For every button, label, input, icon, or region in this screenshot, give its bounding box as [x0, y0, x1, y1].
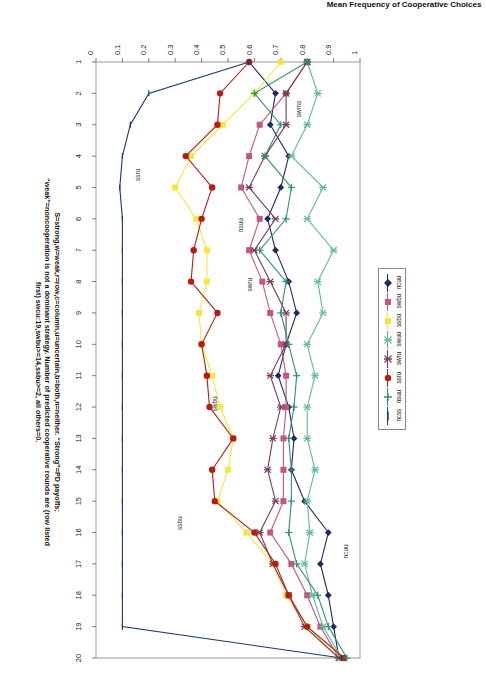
data-point-ssru: [198, 341, 204, 347]
x-tick-label: 11: [74, 372, 83, 380]
x-tick-label: 9: [74, 311, 83, 315]
x-tick-label: 7: [74, 248, 83, 252]
y-tick-label: 0.9: [324, 45, 333, 55]
data-point-ssru: [214, 310, 220, 316]
x-tick-label: 20: [74, 654, 83, 662]
x-tick-label: 3: [74, 123, 83, 127]
series-line-swuu: [291, 62, 341, 658]
x-tick-label: 19: [74, 622, 83, 630]
x-tick-label: 14: [74, 466, 83, 474]
data-point-ssru: [209, 184, 215, 190]
data-point-ncuu: [275, 372, 282, 379]
data-point-ssru: [204, 372, 210, 378]
legend-item-ncss[interactable]: ncss: [382, 406, 402, 425]
line-chart: 00.10.20.30.40.50.60.70.80.9112345678910…: [70, 0, 370, 680]
data-point-swuu: [330, 247, 338, 253]
legend-item-nsuu[interactable]: nsuu: [382, 387, 402, 406]
x-tick-label: 8: [74, 279, 83, 283]
data-point-ssru: [190, 247, 196, 253]
data-point-swbu: [257, 216, 263, 222]
data-point-swuu: [303, 216, 311, 222]
caption-line-2: “weak”=noncooperation is not a dominant …: [43, 62, 53, 662]
data-point-ncuu: [277, 184, 284, 191]
data-point-swru: [266, 279, 274, 285]
data-point-ssru: [212, 498, 218, 504]
series-annotation: nsuu: [237, 218, 244, 232]
y-tick-label: 0.2: [139, 45, 148, 55]
data-point-swuu: [314, 90, 322, 96]
data-point-nsuu: [285, 529, 292, 536]
series-line-swbu: [241, 62, 339, 658]
series-annotation: ncuu: [342, 544, 349, 558]
y-tick-label: 0.5: [218, 45, 227, 55]
data-point-ncuu: [317, 560, 324, 567]
data-point-swru: [245, 184, 253, 190]
data-point-swbu: [267, 530, 273, 536]
data-point-ncuu: [264, 215, 271, 222]
y-tick-label: 0.3: [166, 45, 175, 55]
data-point-ssru: [217, 90, 223, 96]
x-tick-label: 18: [74, 591, 83, 599]
data-point-ssbu: [243, 530, 249, 536]
legend-marker-square-icon: [382, 312, 393, 330]
legend-item-ssbu[interactable]: ssbu: [382, 311, 402, 330]
series-line-ssbu: [175, 62, 339, 658]
x-tick-label: 1: [74, 60, 83, 64]
legend-label: swru: [395, 352, 402, 365]
legend-marker-diamond-icon: [382, 274, 393, 292]
x-tick-label: 17: [74, 560, 83, 568]
legend-marker-plus-icon: [382, 388, 393, 406]
plot-area-wrapper: 00.10.20.30.40.50.60.70.80.9112345678910…: [70, 0, 370, 680]
data-point-swbu: [259, 279, 265, 285]
x-tick-label: 2: [74, 91, 83, 95]
legend-marker-line-icon: [382, 407, 393, 425]
y-tick-label: 0.6: [245, 45, 254, 55]
y-tick-label: 1: [350, 51, 359, 55]
legend-label: ncuu: [395, 276, 402, 289]
data-point-ssru: [286, 592, 292, 598]
legend-label: ncss: [395, 409, 402, 422]
data-point-ssbu: [225, 467, 231, 473]
data-point-ssbu: [172, 184, 178, 190]
data-point-nsuu: [288, 466, 295, 473]
data-point-swuu: [288, 153, 296, 159]
data-point-ssru: [304, 623, 310, 629]
series-annotation: swbu: [211, 396, 218, 412]
plot-frame: [96, 62, 360, 658]
data-point-ssbu: [196, 310, 202, 316]
legend-label: swbu: [395, 294, 402, 308]
y-tick-label: 0.8: [298, 45, 307, 55]
data-point-swbu: [257, 122, 263, 128]
legend-item-swuu[interactable]: swuu: [382, 330, 402, 349]
data-point-ssbu: [204, 279, 210, 285]
data-point-ssru: [230, 435, 236, 441]
data-point-ssru: [188, 278, 194, 284]
data-point-ssbu: [278, 59, 284, 65]
x-tick-label: 12: [74, 403, 83, 411]
legend-item-swru[interactable]: swru: [382, 349, 402, 368]
x-tick-label: 15: [74, 497, 83, 505]
legend-label: ssbu: [395, 314, 402, 327]
data-point-swru: [272, 216, 280, 222]
legend-item-ssru[interactable]: ssru: [382, 368, 402, 387]
legend-marker-star-icon: [382, 331, 393, 349]
caption-line-1: S=strong,w=weak,r=row,c=column,u=uncerta…: [52, 62, 62, 662]
data-point-swuu: [303, 122, 311, 128]
series-annotation: ssbu: [176, 516, 183, 530]
data-point-swbu: [267, 310, 273, 316]
figure-caption: S=strong,w=weak,r=row,c=column,u=uncerta…: [33, 62, 62, 662]
y-tick-label: 0.4: [192, 45, 201, 55]
data-point-ssru: [272, 561, 278, 567]
caption-line-3: first) swcu:19,swbu>=14,ssbu>=2, all oth…: [33, 62, 43, 662]
data-point-nsuu: [290, 403, 297, 410]
legend-item-ncuu[interactable]: ncuu: [382, 273, 402, 292]
data-point-ssru: [214, 122, 220, 128]
series-line-ssru: [186, 62, 344, 658]
legend-item-swbu[interactable]: swbu: [382, 292, 402, 311]
y-tick-label: 0.1: [113, 45, 122, 55]
y-axis-title: Mean Frequency of Cooperative Choices: [254, 0, 486, 9]
data-point-ncuu: [272, 247, 279, 254]
data-point-ssbu: [204, 247, 210, 253]
